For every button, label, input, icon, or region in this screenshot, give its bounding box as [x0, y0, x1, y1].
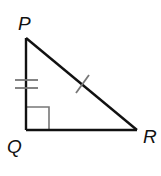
vertex-label-q: Q — [7, 137, 22, 156]
triangle-diagram: P Q R — [0, 0, 161, 176]
vertex-label-r: R — [143, 127, 157, 146]
vertex-label-p: P — [18, 14, 31, 33]
tick-mark-pr — [76, 75, 89, 93]
right-angle-marker — [26, 107, 49, 130]
